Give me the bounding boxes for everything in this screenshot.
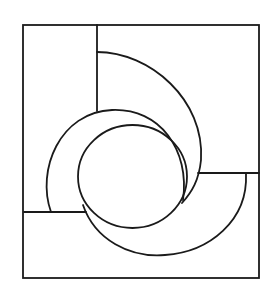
swirl-arcs (47, 52, 246, 255)
diagram-canvas (0, 0, 273, 298)
divider-lines (24, 25, 259, 212)
bottom-arc (83, 174, 246, 255)
left-c-arc (47, 110, 184, 212)
central-circle (78, 125, 187, 228)
diagram-svg (0, 0, 273, 298)
